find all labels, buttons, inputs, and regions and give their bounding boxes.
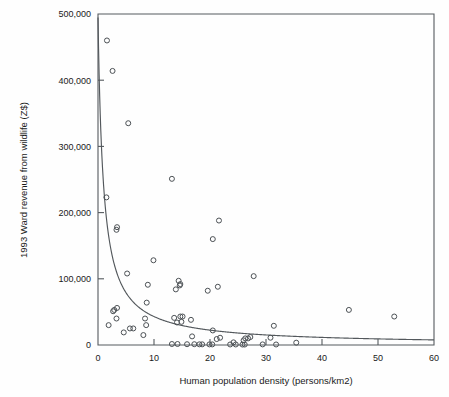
data-point — [143, 316, 148, 321]
data-point — [190, 334, 195, 339]
data-point — [251, 274, 256, 279]
chart-figure: 1993 Ward revenue from wildlife (Z$) Hum… — [0, 0, 449, 397]
data-point — [145, 282, 150, 287]
data-point — [114, 316, 119, 321]
data-point — [175, 342, 180, 347]
data-point — [392, 314, 397, 319]
data-point — [104, 38, 109, 43]
data-point — [192, 342, 197, 347]
y-axis-title: 1993 Ward revenue from wildlife (Z$) — [18, 102, 29, 258]
x-axis-title: Human population density (persons/km2) — [179, 375, 352, 386]
data-point — [141, 333, 146, 338]
axis-ticks-group — [98, 80, 378, 345]
data-point — [106, 323, 111, 328]
x-tick-label-30: 30 — [261, 353, 271, 363]
x-tick-label-10: 10 — [149, 353, 159, 363]
plot-frame — [98, 14, 434, 345]
data-point — [215, 284, 220, 289]
y-tick-label-100000: 100,000 — [58, 274, 91, 284]
x-tick-label-40: 40 — [317, 353, 327, 363]
data-point — [144, 300, 149, 305]
x-tick-label-60: 60 — [429, 353, 439, 363]
data-point — [216, 218, 221, 223]
scatter-plot-svg: 1993 Ward revenue from wildlife (Z$) Hum… — [0, 0, 449, 397]
data-point — [260, 342, 265, 347]
data-point — [126, 121, 131, 126]
data-point — [188, 317, 193, 322]
y-tick-label-300000: 300,000 — [58, 142, 91, 152]
data-point — [210, 237, 215, 242]
y-tick-label-0: 0 — [86, 340, 91, 350]
data-point — [121, 330, 126, 335]
data-point — [205, 288, 210, 293]
y-tick-label-200000: 200,000 — [58, 208, 91, 218]
data-point — [346, 307, 351, 312]
data-point — [151, 258, 156, 263]
data-point — [144, 323, 149, 328]
data-point — [110, 68, 115, 73]
x-tick-label-20: 20 — [205, 353, 215, 363]
data-point — [169, 342, 174, 347]
data-point — [294, 340, 299, 345]
data-points-group — [104, 38, 397, 347]
data-point — [172, 315, 177, 320]
data-point — [125, 271, 130, 276]
y-tick-label-500000: 500,000 — [58, 9, 91, 19]
data-point — [271, 323, 276, 328]
fitted-curve — [98, 17, 434, 339]
fit-curve-group — [98, 17, 434, 339]
data-point — [111, 309, 116, 314]
plot-border — [98, 14, 434, 345]
x-tick-label-50: 50 — [373, 353, 383, 363]
data-point — [127, 326, 132, 331]
y-tick-label-400000: 400,000 — [58, 76, 91, 86]
data-point — [268, 335, 273, 340]
data-point — [173, 287, 178, 292]
data-point — [185, 342, 190, 347]
data-point — [169, 176, 174, 181]
x-tick-label-0: 0 — [95, 353, 100, 363]
